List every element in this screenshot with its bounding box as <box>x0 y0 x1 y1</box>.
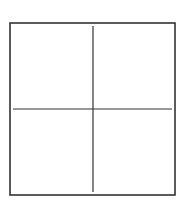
quadrant-diagram-svg <box>0 0 185 202</box>
quadrant-diagram <box>0 0 185 202</box>
